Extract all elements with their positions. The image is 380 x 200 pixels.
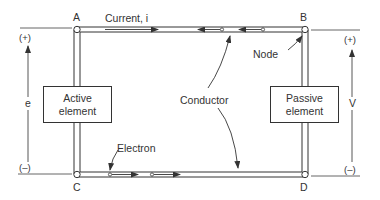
passive-element-box: Passive element bbox=[270, 86, 339, 123]
right-plus-label: (+) bbox=[344, 35, 356, 45]
conductor-pointer-arrow-top bbox=[208, 36, 230, 88]
passive-element-line2: element bbox=[286, 105, 323, 118]
bottom-electrons bbox=[108, 173, 180, 176]
conductor-label: Conductor bbox=[180, 95, 228, 106]
active-element-line1: Active bbox=[63, 92, 92, 105]
node-b-dot bbox=[302, 26, 308, 32]
node-a-dot bbox=[74, 26, 80, 32]
emf-label: e bbox=[24, 97, 32, 110]
electron-label: Electron bbox=[117, 143, 156, 154]
node-text-label: Node bbox=[253, 49, 278, 60]
node-a-label: A bbox=[73, 12, 80, 23]
node-d-label: D bbox=[300, 182, 308, 193]
current-label: Current, i bbox=[105, 13, 148, 24]
right-minus-label: (–) bbox=[344, 165, 356, 175]
active-element-line2: element bbox=[59, 105, 96, 118]
active-element-box: Active element bbox=[43, 86, 112, 123]
node-pointer-arrow bbox=[288, 36, 302, 50]
left-plus-label: (+) bbox=[19, 33, 31, 43]
voltage-label: V bbox=[348, 97, 357, 110]
node-c-dot bbox=[74, 171, 80, 177]
conductor-pointer-arrow-bottom bbox=[218, 108, 238, 168]
node-b-label: B bbox=[300, 12, 307, 23]
node-c-label: C bbox=[73, 182, 81, 193]
top-electrons bbox=[198, 28, 265, 31]
node-d-dot bbox=[302, 171, 308, 177]
left-minus-label: (–) bbox=[19, 163, 31, 173]
passive-element-line1: Passive bbox=[286, 92, 323, 105]
